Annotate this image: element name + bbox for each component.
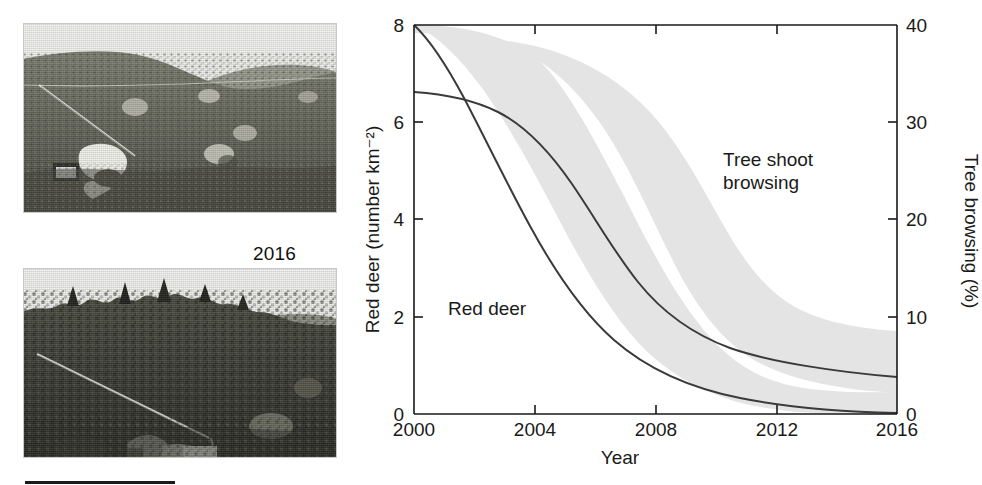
photo-2005 xyxy=(23,23,337,213)
y-right-tick-30: 30 xyxy=(906,112,946,134)
x-tick-2000: 2000 xyxy=(379,419,449,441)
photo-year-label-2016: 2016 xyxy=(253,243,296,265)
annotation-tree-line-2: browsing xyxy=(723,171,813,194)
annotation-red-deer: Red deer xyxy=(448,297,526,320)
x-tick-2004: 2004 xyxy=(500,419,570,441)
photo-2016-image xyxy=(23,268,337,458)
photo-2005-image xyxy=(23,23,337,213)
x-tick-2016: 2016 xyxy=(862,419,932,441)
chart-panel: 8 6 4 2 0 40 30 20 10 0 2000 2004 2008 2… xyxy=(340,0,978,485)
y-right-tick-20: 20 xyxy=(906,209,946,231)
y-axis-right-ticks xyxy=(888,122,897,317)
y-right-tick-40: 40 xyxy=(906,15,946,37)
photo-panel: 2005 xyxy=(0,0,340,485)
chart-plot-area xyxy=(340,0,978,485)
x-tick-2012: 2012 xyxy=(742,419,812,441)
scale-bar xyxy=(25,481,175,484)
y-right-tick-10: 10 xyxy=(906,307,946,329)
x-tick-2008: 2008 xyxy=(621,419,691,441)
x-axis-title: Year xyxy=(340,447,900,469)
y-left-tick-8: 8 xyxy=(368,15,404,37)
y-axis-left-ticks xyxy=(414,122,423,317)
annotation-tree-shoot-browsing: Tree shoot browsing xyxy=(723,148,813,194)
annotation-tree-line-1: Tree shoot xyxy=(723,148,813,171)
y-axis-left-title: Red deer (number km⁻²) xyxy=(361,100,384,360)
y-axis-right-title: Tree browsing (%) xyxy=(960,116,982,346)
photo-2016 xyxy=(23,268,337,458)
